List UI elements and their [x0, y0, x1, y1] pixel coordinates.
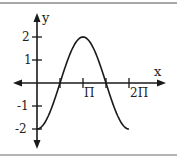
y-tick-label-2: 2 — [22, 30, 30, 44]
x-tick-label-pi: Π — [84, 86, 94, 100]
x-axis-label: x — [154, 64, 162, 79]
x-axis-right-arrow-icon — [157, 80, 166, 87]
cosine-graph: y x 2 1 -1 -2 Π 2Π — [0, 0, 177, 157]
x-axis-left-arrow-icon — [13, 80, 22, 87]
y-axis-label: y — [41, 10, 50, 25]
y-tick-label-1: 1 — [24, 53, 32, 67]
y-tick-label-neg2: -2 — [15, 122, 27, 136]
y-axis-up-arrow-icon — [34, 13, 41, 22]
y-axis-down-arrow-icon — [34, 140, 41, 149]
graph-frame: y x 2 1 -1 -2 Π 2Π — [0, 0, 177, 157]
y-tick-label-neg1: -1 — [17, 99, 29, 113]
x-tick-label-2pi: 2Π — [130, 86, 148, 100]
